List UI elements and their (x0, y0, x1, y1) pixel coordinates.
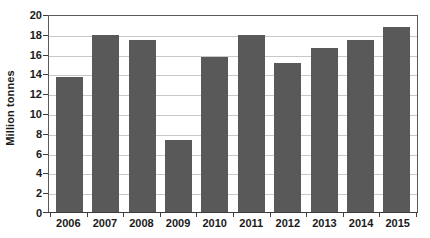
y-axis-tick-labels: 02468101214161820 (22, 15, 42, 213)
x-axis-tick-label: 2015 (379, 217, 416, 231)
bar-slot (306, 16, 342, 212)
bar-chart-figure: Million tonnes 02468101214161820 2006200… (0, 0, 430, 238)
plot-area (48, 15, 418, 213)
bar (92, 35, 119, 212)
bar (56, 77, 83, 212)
y-axis-title-label: Million tonnes (4, 70, 16, 145)
bar-slot (379, 16, 415, 212)
y-axis-tick-label: 4 (36, 167, 42, 179)
x-axis-tick-label: 2011 (233, 217, 270, 231)
y-axis-tick-label: 18 (30, 29, 42, 41)
bar (347, 40, 374, 212)
y-axis-title: Million tonnes (0, 0, 20, 215)
figure-caption (0, 233, 430, 238)
x-axis-tick-label: 2014 (343, 217, 380, 231)
bar (201, 57, 228, 212)
bar (165, 140, 192, 212)
x-axis-tick-label: 2008 (123, 217, 160, 231)
bar-slot (197, 16, 233, 212)
x-axis-tick-labels: 2006200720082009201020112012201320142015 (48, 217, 418, 231)
y-axis-tick-label: 0 (36, 207, 42, 219)
x-axis-tick-label: 2006 (50, 217, 87, 231)
bar-slot (342, 16, 378, 212)
x-axis-tick-label: 2009 (160, 217, 197, 231)
y-axis-tick-label: 6 (36, 148, 42, 160)
bar-slot (87, 16, 123, 212)
bar-slot (269, 16, 305, 212)
bar-slot (160, 16, 196, 212)
y-axis-tick-label: 8 (36, 128, 42, 140)
y-axis-tick-label: 20 (30, 9, 42, 21)
x-axis-tick-label: 2013 (306, 217, 343, 231)
x-axis-tick-label: 2007 (87, 217, 124, 231)
y-axis-tick-label: 14 (30, 68, 42, 80)
bar (238, 35, 265, 212)
y-axis-tick-label: 16 (30, 49, 42, 61)
bar-slot (233, 16, 269, 212)
bar (274, 63, 301, 212)
x-axis-tick-label: 2010 (196, 217, 233, 231)
bar-slot (51, 16, 87, 212)
y-axis-tick-label: 12 (30, 88, 42, 100)
y-axis-tick-label: 10 (30, 108, 42, 120)
bar-series (49, 16, 417, 212)
y-axis-tick-label: 2 (36, 187, 42, 199)
bar (311, 48, 338, 212)
bar-slot (124, 16, 160, 212)
x-axis-tick-label: 2012 (270, 217, 307, 231)
bar (383, 27, 410, 212)
bar (129, 40, 156, 212)
